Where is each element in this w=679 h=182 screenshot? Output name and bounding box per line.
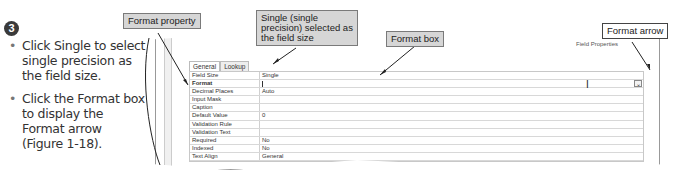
callout-format-box: Format box bbox=[386, 31, 444, 47]
callout-format-property: Format property bbox=[123, 13, 201, 29]
callout-format-arrow: Format arrow bbox=[602, 23, 668, 39]
callout-single-selected: Single (single precision) selected as th… bbox=[256, 10, 358, 46]
